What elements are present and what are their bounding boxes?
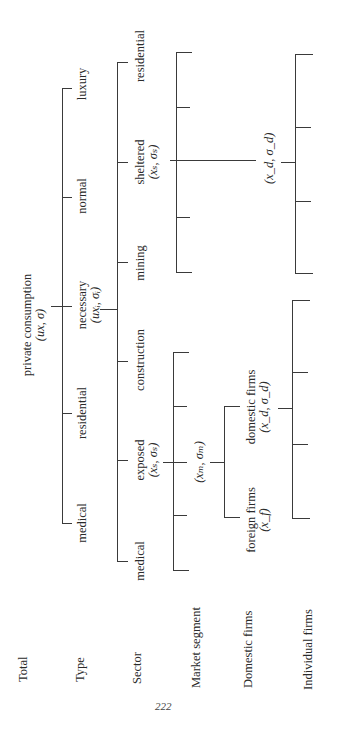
page-number: 222 — [155, 700, 172, 712]
row-label-type: Type — [73, 657, 88, 682]
tick-luxury — [62, 88, 72, 89]
node-sector-mining: mining — [134, 242, 147, 284]
node-foreign-firms: foreign firms (x_f) — [245, 484, 271, 556]
tick-ind-3 — [292, 444, 308, 445]
tick-medical — [62, 523, 72, 524]
tick-sheltered-4 — [176, 272, 192, 273]
row-label-sector: Sector — [130, 652, 145, 684]
node-sheltered-domestic: (x_d, σ_d) — [263, 140, 276, 184]
node-sector-residential: residential — [134, 24, 147, 88]
node-type-necessary: necessary (uxᵢ, σᵢ) — [76, 273, 102, 337]
node-total-params: (ux, σ) — [34, 265, 47, 385]
node-type-residential: residential — [76, 381, 89, 445]
tick-exposed-5 — [173, 570, 189, 571]
tick-necessary — [62, 306, 72, 307]
bracket-sector — [117, 62, 118, 562]
node-total-label: private consumption — [20, 274, 34, 376]
node-domestic-firms: domestic firms (x_d, σ_d) — [245, 368, 271, 446]
tick-sector-exposed — [117, 460, 128, 461]
connector-necessary-sector — [100, 309, 117, 310]
node-sector-exposed: exposed (xₛ, σₛ) — [134, 434, 160, 486]
bracket-domestic — [224, 406, 225, 518]
node-total: private consumption (ux, σ) — [21, 265, 47, 385]
tick-sheltered-1 — [176, 52, 192, 53]
tick-sfirm-4 — [295, 273, 313, 274]
node-type-medical: medical — [76, 500, 89, 546]
node-sector-sheltered: sheltered (xₛ, σₛ) — [134, 134, 160, 190]
row-label-total: Total — [16, 656, 31, 682]
tick-sheltered-2 — [176, 107, 190, 108]
tick-residential — [62, 413, 72, 414]
tick-ind-2 — [292, 372, 308, 373]
node-type-normal: normal — [76, 174, 89, 218]
node-type-luxury: luxury — [76, 64, 89, 104]
connector-sheltered-domestic — [281, 162, 295, 163]
tick-exposed-3 — [173, 462, 187, 463]
row-label-individual-firms: Individual firms — [301, 609, 316, 690]
connector-sheltered — [170, 160, 256, 161]
tick-domestic — [224, 406, 240, 407]
tick-sector-construction — [117, 361, 128, 362]
tick-sector-residential — [117, 62, 128, 63]
bracket-sheltered-market — [176, 52, 177, 273]
tick-sector-medical — [117, 561, 128, 562]
tick-sheltered-3 — [176, 217, 190, 218]
tick-sfirm-1 — [295, 54, 313, 55]
tick-sfirm-2 — [295, 127, 311, 128]
tick-exposed-1 — [173, 352, 189, 353]
tick-ind-4 — [292, 518, 310, 519]
tick-exposed-4 — [173, 515, 187, 516]
node-sector-construction: construction — [134, 322, 147, 398]
tick-ind-1 — [292, 300, 310, 301]
tick-sector-sheltered — [117, 162, 128, 163]
node-sector-medical: medical — [134, 538, 147, 584]
tick-sector-mining — [117, 262, 128, 263]
tick-foreign — [224, 517, 240, 518]
connector-domestic-individual — [278, 408, 292, 409]
tick-exposed-2 — [173, 406, 187, 407]
bracket-sheltered-firms — [295, 54, 296, 274]
connector-market-domestic — [210, 462, 224, 463]
tick-sfirm-3 — [295, 201, 311, 202]
row-label-domestic-firms: Domestic firms — [241, 611, 256, 688]
row-label-market-segment: Market segment — [189, 607, 204, 688]
node-market-segment: (xₘ, σₘ) — [193, 440, 206, 484]
bracket-individual — [292, 300, 293, 519]
tick-normal — [62, 197, 72, 198]
